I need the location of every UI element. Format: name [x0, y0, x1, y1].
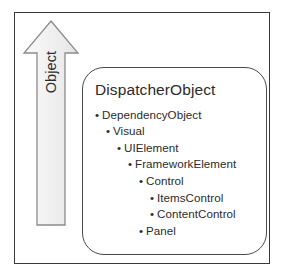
list-item: •Panel — [95, 223, 275, 240]
list-item: •ItemsControl — [95, 190, 275, 207]
class-label: ItemsControl — [157, 191, 223, 204]
root-class-title: DispatcherObject — [95, 81, 275, 100]
bullet-icon: • — [139, 223, 146, 240]
list-item: •Visual — [95, 123, 275, 140]
list-item: •ContentControl — [95, 206, 275, 223]
class-label: UIElement — [124, 141, 179, 154]
bullet-icon: • — [150, 206, 157, 223]
list-item: •Control — [95, 173, 275, 190]
list-item: •DependencyObject — [95, 107, 275, 124]
bullet-icon: • — [117, 140, 124, 157]
list-item: •FrameworkElement — [95, 156, 275, 173]
class-label: Visual — [113, 124, 145, 137]
class-label: DependencyObject — [102, 108, 201, 121]
bullet-icon: • — [95, 107, 102, 124]
bullet-icon: • — [139, 173, 146, 190]
class-label: Control — [146, 174, 184, 187]
up-arrow-icon — [21, 18, 81, 228]
diagram-canvas: Object DispatcherObject •DependencyObjec… — [0, 0, 285, 278]
list-item: •UIElement — [95, 140, 275, 157]
class-label: ContentControl — [157, 207, 236, 220]
class-label: FrameworkElement — [135, 157, 236, 170]
class-label: Panel — [146, 224, 176, 237]
bullet-icon: • — [106, 123, 113, 140]
hierarchy-content: DispatcherObject •DependencyObject •Visu… — [95, 81, 275, 239]
bullet-icon: • — [150, 190, 157, 207]
class-hierarchy-list: •DependencyObject •Visual •UIElement •Fr… — [95, 107, 275, 240]
object-axis-arrow: Object — [21, 18, 81, 228]
bullet-icon: • — [128, 156, 135, 173]
